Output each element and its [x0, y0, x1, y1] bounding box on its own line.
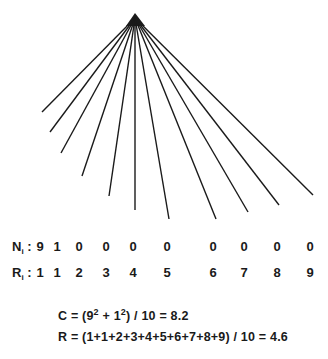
fan-diagram	[0, 0, 328, 230]
fan-line-4	[82, 18, 135, 176]
r-value-1: 1	[33, 265, 47, 280]
r-value-9: 8	[270, 265, 284, 280]
n-value-9: 0	[270, 239, 284, 254]
n-row: Ni : 9100000000	[0, 239, 328, 259]
r-value-2: 1	[50, 265, 64, 280]
n-value-8: 0	[237, 239, 251, 254]
r-value-6: 5	[160, 265, 174, 280]
fan-line-11	[135, 18, 313, 195]
formula-c: C = (92 + 12) / 10 = 8.2	[58, 309, 189, 323]
n-value-10: 0	[303, 239, 317, 254]
fan-line-1	[42, 18, 135, 112]
formula-r: R = (1+1+2+3+4+5+6+7+8+9) / 10 = 4.6	[58, 330, 288, 344]
r-value-8: 7	[237, 265, 251, 280]
fan-line-8	[135, 18, 216, 219]
r-value-4: 3	[99, 265, 113, 280]
fan-line-5	[109, 18, 135, 196]
r-row: Ri : 1123456789	[0, 265, 328, 285]
fan-line-3	[61, 18, 135, 153]
r-value-7: 6	[206, 265, 220, 280]
n-value-1: 9	[33, 239, 47, 254]
r-value-5: 4	[126, 265, 140, 280]
n-value-4: 0	[99, 239, 113, 254]
r-value-3: 2	[72, 265, 86, 280]
fan-line-2	[50, 18, 135, 132]
fan-line-10	[135, 18, 279, 205]
n-value-2: 1	[50, 239, 64, 254]
r-value-10: 9	[303, 265, 317, 280]
n-value-6: 0	[160, 239, 174, 254]
n-value-3: 0	[72, 239, 86, 254]
n-value-7: 0	[206, 239, 220, 254]
n-value-5: 0	[126, 239, 140, 254]
n-row-label: Ni :	[12, 239, 32, 256]
r-row-label: Ri :	[12, 265, 32, 282]
